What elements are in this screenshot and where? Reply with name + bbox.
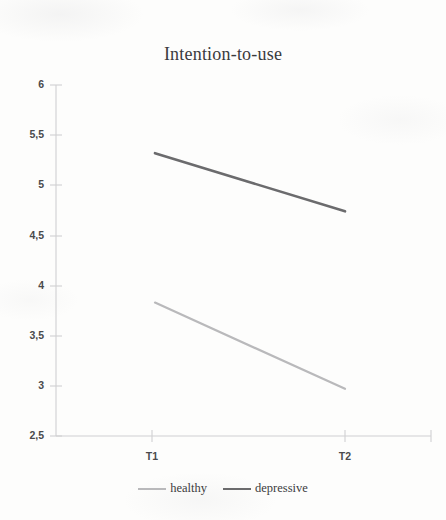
y-tick-label-5: 5	[4, 178, 44, 190]
chart-page: Intention-to-use 6 5,5 5 4,5	[0, 0, 446, 520]
y-tick-label-3: 3	[4, 379, 44, 391]
legend-swatch-depressive	[223, 488, 251, 490]
x-tick-label-t1: T1	[130, 450, 174, 462]
line-chart-plot	[0, 0, 446, 520]
y-tick-label-3-5: 3,5	[4, 329, 44, 341]
series-line-depressive	[155, 153, 345, 211]
legend-swatch-healthy	[138, 488, 166, 490]
y-tick-label-6: 6	[4, 78, 44, 90]
legend-entry-healthy: healthy	[138, 481, 207, 496]
y-tick-label-2-5: 2,5	[4, 429, 44, 441]
y-tick-label-5-5: 5,5	[4, 128, 44, 140]
legend-label-healthy: healthy	[170, 481, 207, 496]
series-line-healthy	[155, 303, 345, 389]
y-tick-label-4-5: 4,5	[4, 229, 44, 241]
x-tick-label-t2: T2	[323, 450, 367, 462]
chart-legend: healthy depressive	[0, 481, 446, 496]
legend-entry-depressive: depressive	[223, 481, 308, 496]
y-tick-label-4: 4	[4, 279, 44, 291]
legend-label-depressive: depressive	[255, 481, 308, 496]
